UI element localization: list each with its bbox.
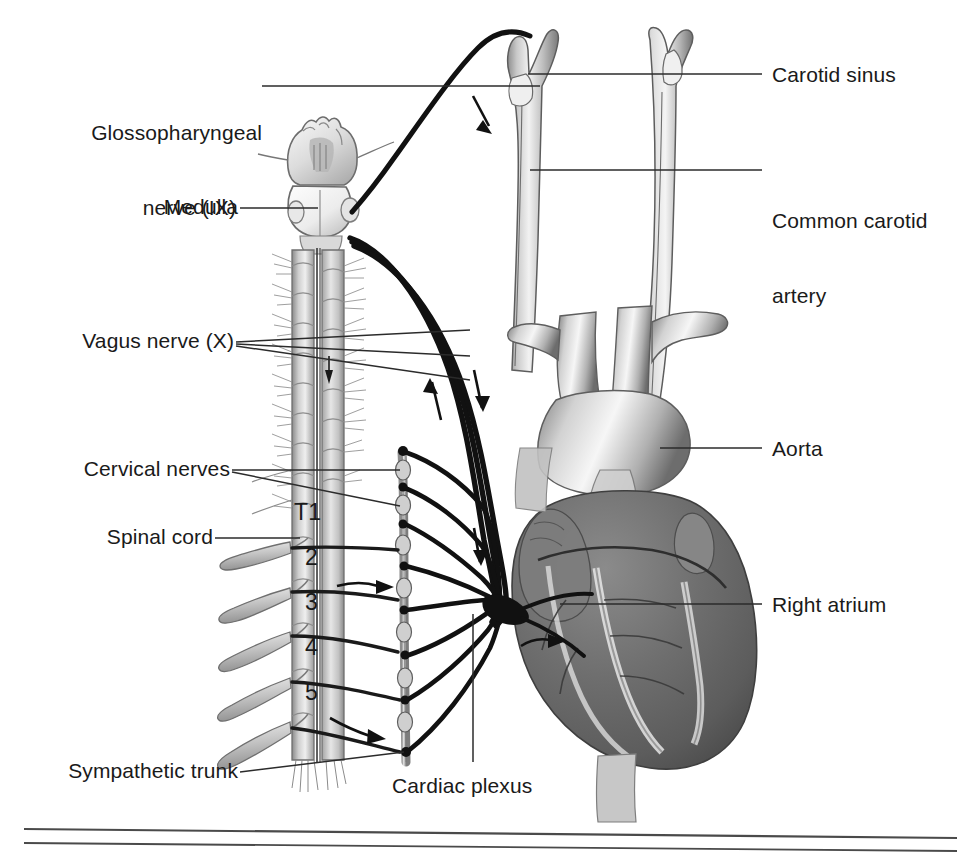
lower-rule-bottom	[24, 843, 957, 851]
label-glossopharyngeal-nerve: Glossopharyngeal nerve (IX)	[0, 70, 262, 270]
label-vagus-nerve: Vagus nerve (X)	[0, 328, 234, 353]
segment-label-4: 4	[305, 635, 318, 660]
segment-label-3: 3	[305, 590, 318, 615]
segment-label-2: 2	[305, 545, 318, 570]
label-cardiac-plexus: Cardiac plexus	[392, 773, 532, 798]
label-aorta: Aorta	[772, 436, 823, 461]
glossopharyngeal-nerve-path	[352, 32, 530, 212]
segment-label-5: 5	[305, 680, 318, 705]
leader-vagus-3	[236, 346, 470, 380]
bottom-rules	[24, 829, 957, 851]
label-common-carotid-line1: Common carotid	[772, 208, 972, 233]
vagus-nerve-paths	[350, 238, 506, 626]
label-glossopharyngeal-line1: Glossopharyngeal	[0, 120, 262, 145]
label-right-atrium: Right atrium	[772, 592, 886, 617]
label-sympathetic-trunk: Sympathetic trunk	[0, 758, 238, 783]
lower-rule-top	[24, 829, 957, 838]
label-common-carotid-line2: artery	[772, 283, 972, 308]
label-common-carotid-artery: Common carotid artery	[772, 158, 972, 358]
leader-vagus-2	[236, 344, 470, 356]
label-spinal-cord: Spinal cord	[0, 524, 213, 549]
segment-label-t1: T1	[294, 500, 321, 525]
label-medulla: Medulla	[0, 194, 238, 219]
label-cervical-nerves: Cervical nerves	[0, 456, 230, 481]
anatomy-figure: Glossopharyngeal nerve (IX) Medulla Vagu…	[0, 0, 979, 861]
label-carotid-sinus: Carotid sinus	[772, 62, 896, 87]
